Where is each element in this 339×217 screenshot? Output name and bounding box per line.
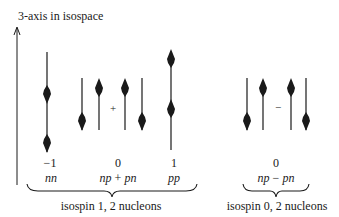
down-arrow-icon (138, 112, 146, 131)
isospin1-values: −1 0 1 (44, 156, 177, 170)
minus-sign: − (275, 101, 281, 113)
label-np-minus-pn: np−pn (258, 171, 295, 185)
isospin1-brace (27, 184, 197, 197)
down-arrow-icon (43, 85, 51, 104)
down-arrow-icon (243, 112, 251, 131)
label-pn: pn (123, 171, 136, 185)
value-nn: −1 (44, 156, 57, 170)
label-np: np (258, 171, 270, 185)
np-minus-pn-arrows: − (243, 78, 310, 131)
down-arrow-icon (78, 112, 86, 131)
isospin1-state-names: nn np+pn pp (45, 171, 180, 185)
value-np-plus-pn: 0 (115, 156, 121, 170)
up-arrow-icon (167, 99, 175, 118)
isospin-diagram: 3-axis in isospace + − −1 (0, 0, 339, 217)
label-minus: − (273, 171, 280, 185)
np-plus-pn-arrows: + (78, 78, 146, 131)
down-arrow-icon (302, 112, 310, 131)
label-np: np (100, 171, 112, 185)
pp-state-arrows (167, 49, 175, 150)
isospin0-label: isospin 0, 2 nucleons (227, 199, 328, 213)
label-nn: nn (45, 171, 57, 185)
value-np-minus-pn: 0 (273, 156, 279, 170)
up-arrow-icon (95, 78, 103, 97)
up-arrow-icon (259, 78, 267, 97)
isospin1-label: isospin 1, 2 nucleons (61, 199, 162, 213)
isospin0-brace (243, 184, 309, 197)
up-arrow-icon (167, 49, 175, 68)
label-plus: + (115, 171, 122, 185)
nn-state-arrows (43, 52, 51, 153)
label-pn: pn (281, 171, 294, 185)
axis-label: 3-axis in isospace (18, 9, 103, 23)
isospace-axis: 3-axis in isospace (14, 9, 103, 185)
label-np-plus-pn: np+pn (100, 171, 137, 185)
plus-sign: + (110, 102, 116, 114)
value-pp: 1 (171, 156, 177, 170)
down-arrow-icon (43, 134, 51, 153)
up-arrow-icon (121, 78, 129, 97)
label-pp: pp (167, 171, 180, 185)
up-arrow-icon (287, 78, 295, 97)
